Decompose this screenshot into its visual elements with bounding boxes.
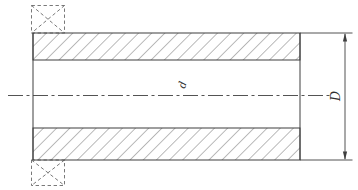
lower-wall-hatch [33,128,300,160]
tube-section-drawing: d D [0,0,358,190]
upper-wall-hatch [33,33,300,60]
label-outer-diameter: D [328,91,343,102]
construction-box-top [32,6,65,34]
arrow-down-icon [343,152,347,161]
construction-box-bottom [32,160,65,186]
dimension-D [300,33,353,160]
tube-section [33,33,300,160]
arrow-up-icon [343,33,347,42]
label-inner-diameter: d [175,80,188,90]
engineering-drawing-canvas: d D [0,0,358,190]
